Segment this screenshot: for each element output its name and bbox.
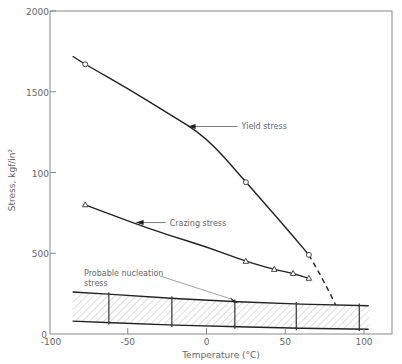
y-tick-label: 100 [32, 169, 49, 179]
annotations: Yield stressCrazing stressProbable nucle… [84, 122, 287, 303]
markers [82, 62, 311, 280]
circle-marker [83, 62, 88, 67]
curves [73, 56, 336, 305]
x-tick-label: 100 [355, 337, 372, 347]
y-tick-label: 0 [41, 330, 47, 340]
x-tick-label: 0 [204, 337, 210, 347]
chart: -100-50050100050010015002000 Yield stres… [0, 0, 402, 364]
crazing-stress-label: Crazing stress [170, 219, 227, 228]
y-axis-label: Stress, kgf/in² [7, 148, 17, 211]
x-tick-label: -50 [120, 337, 135, 347]
band-fill [73, 292, 369, 329]
triangle-marker [82, 202, 88, 207]
y-tick-label: 2000 [26, 7, 49, 17]
nucleation-stress-label-2: stress [84, 279, 108, 288]
circle-marker [243, 180, 248, 185]
nucleation-arrow-line [160, 276, 232, 299]
nucleation-band [73, 292, 369, 331]
x-axis-label: Temperature (°C) [181, 350, 260, 360]
y-tick-label: 500 [32, 249, 49, 259]
circle-marker [306, 252, 311, 257]
nucleation-stress-label: Probable nucleation [84, 269, 163, 278]
x-tick-label: 50 [280, 337, 292, 347]
yield-stress-extrapolation [309, 255, 336, 305]
y-tick-label: 1500 [26, 88, 49, 98]
yield-stress-label: Yield stress [241, 122, 287, 131]
